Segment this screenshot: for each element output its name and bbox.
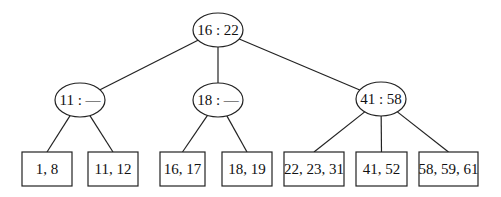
edge-internal-to-leaf-6 [397, 112, 448, 152]
leaf-node-label: 16, 17 [164, 161, 202, 177]
internal-node-0-label: 11 : — [59, 92, 101, 108]
leaf-node-4: 22, 23, 31 [284, 152, 344, 186]
edge-root-to-internal-2 [239, 39, 360, 90]
leaf-node-5: 41, 52 [356, 152, 407, 186]
root-node: 16 : 22 [193, 13, 243, 47]
leaf-node-label: 18, 19 [228, 161, 266, 177]
edge-internal-to-leaf-2 [183, 115, 208, 152]
leaf-node-label: 11, 12 [95, 161, 132, 177]
edge-internal-to-leaf-4 [314, 112, 365, 152]
edge-root-to-internal-0 [100, 40, 198, 90]
internal-node-2-label: 41 : 58 [360, 91, 402, 107]
nodes: 16 : 2211 : —18 : —41 : 581, 811, 1216, … [22, 13, 479, 186]
edge-internal-to-leaf-1 [90, 116, 113, 152]
leaf-node-6: 58, 59, 61 [419, 152, 479, 186]
leaf-node-2: 16, 17 [160, 152, 205, 186]
edge-internal-to-leaf-0 [47, 116, 70, 152]
leaf-node-label: 41, 52 [363, 161, 401, 177]
internal-node-2: 41 : 58 [356, 82, 406, 116]
internal-node-1-label: 18 : — [197, 92, 240, 108]
internal-node-0: 11 : — [55, 83, 105, 117]
leaf-node-0: 1, 8 [22, 152, 72, 186]
leaf-node-label: 1, 8 [36, 161, 59, 177]
internal-node-1: 18 : — [193, 83, 243, 117]
leaf-node-label: 58, 59, 61 [419, 161, 479, 177]
edge-internal-to-leaf-3 [227, 116, 247, 152]
leaf-node-label: 22, 23, 31 [284, 161, 344, 177]
leaf-node-3: 18, 19 [222, 152, 272, 186]
tree-diagram: 16 : 2211 : —18 : —41 : 581, 811, 1216, … [0, 0, 501, 197]
leaf-node-1: 11, 12 [88, 152, 138, 186]
root-node-label: 16 : 22 [197, 22, 239, 38]
